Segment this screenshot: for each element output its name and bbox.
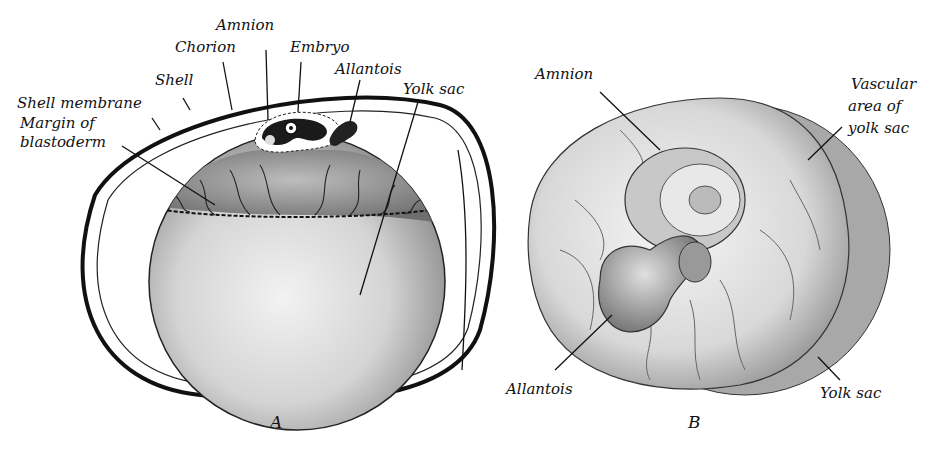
label-allantois-a: Allantois	[333, 60, 402, 78]
label-shell: Shell	[155, 71, 194, 89]
label-vascular-line1: Vascular	[851, 75, 917, 93]
embryo-b	[689, 186, 721, 214]
label-yolk-sac-a: Yolk sac	[403, 80, 465, 98]
label-amnion-b: Amnion	[533, 65, 593, 83]
caption-a: A	[268, 412, 282, 432]
label-margin-line1: Margin of	[19, 114, 97, 132]
figure-b: Amnion Vascular area of yolk sac Allanto…	[504, 65, 917, 432]
label-vascular-line2: area of	[848, 97, 904, 115]
label-vascular-line3: yolk sac	[847, 119, 910, 137]
caption-b: B	[687, 412, 701, 432]
label-allantois-b: Allantois	[504, 380, 573, 398]
label-amnion-a: Amnion	[214, 16, 274, 34]
figure-a: Amnion Chorion Embryo Allantois Shell Yo…	[17, 16, 494, 432]
label-shell-membrane: Shell membrane	[17, 94, 142, 112]
embryo-diagram: Amnion Chorion Embryo Allantois Shell Yo…	[0, 0, 943, 449]
label-chorion-a: Chorion	[175, 38, 236, 56]
label-embryo-a: Embryo	[289, 38, 349, 56]
label-margin-line2: blastoderm	[20, 133, 106, 151]
label-yolk-sac-b: Yolk sac	[820, 384, 882, 402]
